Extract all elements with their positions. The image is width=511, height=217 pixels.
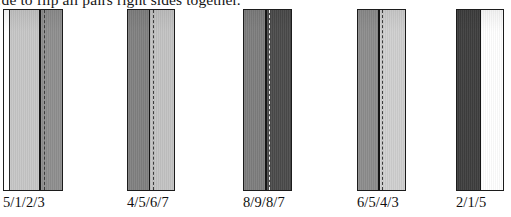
stitch-dashed-line [153, 10, 154, 190]
strip-left-panel [10, 10, 39, 190]
seam-line [265, 10, 267, 190]
fabric-texture [358, 10, 378, 190]
strip-label: 4/5/6/7 [127, 194, 169, 211]
strip-label: 2/1/5 [456, 194, 486, 211]
fabric-texture [10, 10, 39, 190]
fabric-texture [480, 10, 504, 190]
strip-group [357, 9, 406, 191]
fabric-texture [244, 10, 265, 190]
seam-line [149, 10, 151, 190]
strip-left-panel [457, 10, 480, 190]
fabric-strip[interactable] [243, 9, 292, 191]
fabric-strip-pair-diagrams: 5/1/2/34/5/6/78/9/8/76/5/4/32/1/5 [0, 0, 511, 217]
strip-label: 5/1/2/3 [3, 194, 45, 211]
seam-line [480, 10, 482, 190]
strip-group [456, 9, 504, 191]
fabric-strip[interactable] [3, 9, 63, 191]
seam-line [39, 10, 41, 190]
strip-right-panel [480, 10, 504, 190]
stitch-dashed-line [44, 10, 45, 190]
fabric-texture [128, 10, 149, 190]
strip-group [243, 9, 292, 191]
strip-label: 8/9/8/7 [243, 194, 285, 211]
strip-left-panel [244, 10, 265, 190]
strip-group [3, 9, 63, 191]
strip-group [127, 9, 175, 191]
strip-left-panel [358, 10, 378, 190]
fabric-texture [457, 10, 480, 190]
fabric-strip[interactable] [357, 9, 406, 191]
stitch-dashed-line [269, 10, 270, 190]
seam-line [378, 10, 380, 190]
strip-left-panel [128, 10, 149, 190]
fabric-strip[interactable] [127, 9, 175, 191]
strip-right-panel [39, 10, 62, 190]
fabric-strip[interactable] [456, 9, 504, 191]
strip-label: 6/5/4/3 [357, 194, 399, 211]
fabric-texture [39, 10, 62, 190]
stitch-dashed-line [382, 10, 383, 190]
